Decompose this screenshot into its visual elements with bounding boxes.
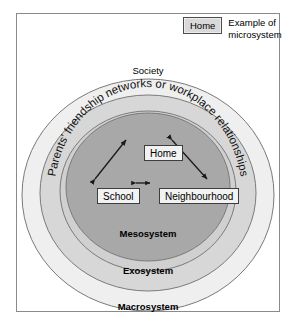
ring-label-society: Society bbox=[16, 65, 280, 76]
ecological-systems-diagram: Parents' friendship networks or workplac… bbox=[16, 13, 280, 312]
legend-description: Example of microsystem bbox=[228, 17, 281, 40]
microsystem-box-home: Home bbox=[144, 145, 183, 161]
ring-label-exosystem: Exosystem bbox=[16, 265, 280, 276]
microsystem-box-school: School bbox=[97, 188, 140, 204]
ring-label-macrosystem: Macrosystem bbox=[16, 301, 280, 312]
ring-label-mesosystem: Mesosystem bbox=[16, 228, 280, 239]
microsystem-box-neighbourhood: Neighbourhood bbox=[159, 188, 239, 204]
legend-example-box: Home bbox=[183, 17, 222, 34]
legend: Home Example of microsystem bbox=[183, 17, 282, 40]
